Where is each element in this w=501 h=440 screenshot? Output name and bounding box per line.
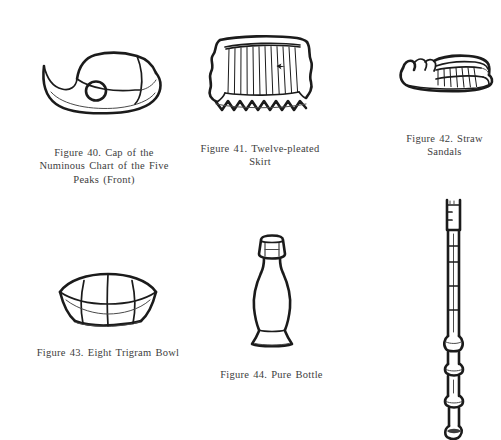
eight-trigram-bowl-line-drawing bbox=[46, 268, 170, 330]
caption-line: Figure 44. Pure Bottle bbox=[198, 368, 345, 381]
figure-41-caption: Figure 41. Twelve-pleated Skirt bbox=[182, 142, 338, 169]
figure-40-caption: Figure 40. Cap of the Numinous Chart of … bbox=[6, 146, 202, 186]
caption-line: Figure 43. Eight Trigram Bowl bbox=[10, 346, 206, 359]
figure-40: Figure 40. Cap of the Numinous Chart of … bbox=[6, 44, 202, 186]
caption-line: Figure 42. Straw bbox=[388, 132, 501, 145]
cap-line-drawing bbox=[29, 44, 179, 120]
figure-42-caption: Figure 42. Straw Sandals bbox=[388, 132, 501, 159]
figure-42: Figure 42. Straw Sandals bbox=[388, 48, 501, 159]
pure-bottle-line-drawing bbox=[245, 232, 299, 350]
running-head-fragment bbox=[0, 0, 501, 3]
figure-44: Figure 44. Pure Bottle bbox=[198, 232, 345, 381]
figure-43: Figure 43. Eight Trigram Bowl bbox=[10, 268, 206, 359]
ritual-staff-line-drawing bbox=[437, 200, 471, 440]
figure-43-caption: Figure 43. Eight Trigram Bowl bbox=[10, 346, 206, 359]
caption-line: Sandals bbox=[388, 145, 501, 158]
caption-line: Figure 41. Twelve-pleated bbox=[182, 142, 338, 155]
pleated-skirt-line-drawing bbox=[198, 30, 322, 118]
straw-sandals-line-drawing bbox=[393, 48, 497, 100]
caption-line: Peaks (Front) bbox=[6, 173, 202, 186]
figure-staff bbox=[424, 200, 484, 440]
caption-line: Figure 40. Cap of the bbox=[6, 146, 202, 159]
caption-line: Skirt bbox=[182, 155, 338, 168]
figure-41: Figure 41. Twelve-pleated Skirt bbox=[182, 30, 338, 169]
caption-line: Numinous Chart of the Five bbox=[6, 159, 202, 172]
figure-44-caption: Figure 44. Pure Bottle bbox=[198, 368, 345, 381]
